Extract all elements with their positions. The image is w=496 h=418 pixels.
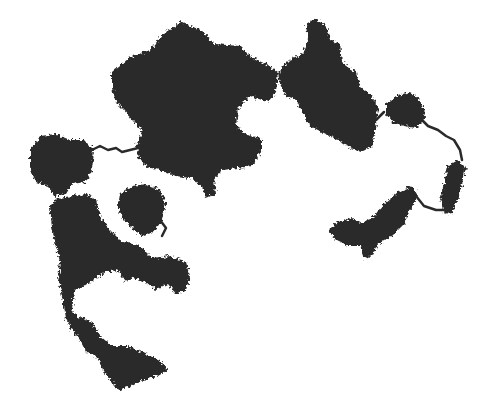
figure-canvas: · ·· ··· ····· · [0,0,496,418]
blob-right-strip [440,160,466,214]
blob-upper-right [278,18,378,152]
blob-top-center [112,22,278,198]
cluster-group [30,18,466,390]
fractal-cluster [0,0,496,418]
branch-center-left [160,220,166,236]
blob-center-left [118,184,166,236]
blob-right-lower [328,186,418,258]
blob-right-small [386,92,426,128]
branch-left-to-main [92,146,138,152]
blob-left [30,134,94,196]
blob-left-lower [50,194,190,390]
